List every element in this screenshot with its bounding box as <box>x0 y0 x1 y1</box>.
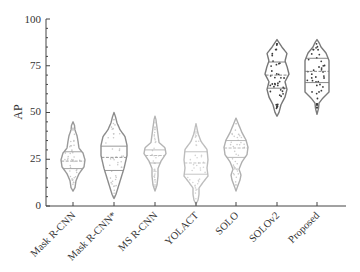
data-point <box>233 146 235 148</box>
data-point <box>154 119 156 121</box>
data-point <box>67 159 69 161</box>
data-point <box>70 167 72 169</box>
data-point <box>238 134 240 136</box>
data-point <box>276 43 278 45</box>
data-point <box>321 69 323 71</box>
data-point <box>231 134 233 136</box>
data-point <box>319 84 321 86</box>
data-point <box>321 67 323 69</box>
y-tick-label-25: 25 <box>30 152 42 164</box>
data-point <box>269 84 271 86</box>
data-point <box>105 142 107 144</box>
data-point <box>72 128 74 130</box>
data-point <box>119 148 121 150</box>
data-point <box>232 158 234 160</box>
data-point <box>306 79 308 81</box>
data-point <box>234 151 236 153</box>
data-point <box>276 73 278 75</box>
data-point <box>154 179 156 181</box>
data-point <box>73 156 75 158</box>
data-point <box>311 77 313 79</box>
data-point <box>322 86 324 88</box>
data-point <box>153 147 155 149</box>
data-point <box>65 152 67 154</box>
data-point <box>193 167 195 169</box>
y-tick-label-0: 0 <box>36 199 42 211</box>
data-point <box>277 82 279 84</box>
data-point <box>236 169 238 171</box>
data-point <box>121 155 123 157</box>
data-point <box>323 75 325 77</box>
data-point <box>320 90 322 92</box>
data-point <box>269 91 271 93</box>
data-point <box>73 144 75 146</box>
data-point <box>154 181 156 183</box>
data-point <box>200 167 202 169</box>
data-point <box>238 154 240 156</box>
data-point <box>316 43 318 45</box>
data-point <box>70 141 72 143</box>
data-point <box>64 159 66 161</box>
data-point <box>154 139 156 141</box>
data-point <box>195 192 197 194</box>
data-point <box>193 164 195 166</box>
data-point <box>114 124 116 126</box>
data-point <box>198 181 200 183</box>
data-point <box>241 137 243 139</box>
data-point <box>283 77 285 79</box>
data-point <box>318 91 320 93</box>
y-tick-label-100: 100 <box>25 13 42 25</box>
data-point <box>113 133 115 135</box>
data-point <box>119 133 121 135</box>
data-point <box>154 169 156 171</box>
data-point <box>187 177 189 179</box>
data-point <box>67 157 69 159</box>
violin-ms-r-cnn <box>144 116 166 191</box>
data-point <box>110 158 112 160</box>
data-point <box>154 132 156 134</box>
y-tick-label-75: 75 <box>30 59 42 71</box>
data-point <box>311 73 313 75</box>
data-point <box>316 93 318 95</box>
data-point <box>194 185 196 187</box>
data-point <box>235 129 237 131</box>
data-point <box>195 189 197 191</box>
data-point <box>271 55 273 57</box>
data-point <box>71 149 73 151</box>
data-point <box>195 132 197 134</box>
data-point <box>72 129 74 131</box>
data-point <box>197 183 199 185</box>
violin-chart: 0 25 50 75 100 AP Mask R-CNN Mask R-CNN*… <box>0 0 360 272</box>
data-point <box>270 65 272 67</box>
data-point <box>234 167 236 169</box>
data-point <box>196 157 198 159</box>
data-point <box>279 94 281 96</box>
y-ticks <box>46 19 50 206</box>
data-point <box>278 63 280 65</box>
data-point <box>73 182 75 184</box>
data-point <box>71 145 73 147</box>
data-point <box>282 93 284 95</box>
data-point <box>113 123 115 125</box>
data-point <box>115 177 117 179</box>
x-tick-label-ms-rcnn: MS R-CNN <box>116 209 160 253</box>
data-point <box>277 85 279 87</box>
plot-area <box>61 40 329 205</box>
data-point <box>195 134 197 136</box>
data-point <box>72 184 74 186</box>
data-point <box>195 127 197 129</box>
data-point <box>115 185 117 187</box>
data-point <box>153 160 155 162</box>
x-tick-label-solov2: SOLOv2 <box>247 210 282 245</box>
data-point <box>308 59 310 61</box>
data-point <box>311 91 313 93</box>
x-tick-label-yolact: YOLACT <box>163 209 201 247</box>
data-point <box>111 126 113 128</box>
data-point <box>71 159 73 161</box>
data-point <box>76 172 78 174</box>
data-point <box>311 53 313 55</box>
data-point <box>74 134 76 136</box>
data-point <box>67 156 69 158</box>
data-point <box>243 144 245 146</box>
data-point <box>113 137 115 139</box>
